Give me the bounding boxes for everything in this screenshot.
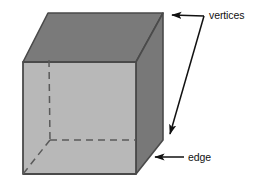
vertices-label: vertices — [209, 9, 244, 21]
annotation-edge: edge — [155, 151, 211, 163]
vertices-arrow-bottom — [170, 16, 204, 134]
annotation-vertices: vertices — [170, 9, 244, 134]
diagram-canvas: vertices edge — [0, 0, 258, 191]
edge-label: edge — [188, 151, 211, 163]
cube-figure: vertices edge — [0, 0, 258, 191]
cube-shape — [23, 13, 163, 174]
cube-front-face — [23, 62, 136, 174]
vertices-arrow-top — [172, 15, 204, 16]
